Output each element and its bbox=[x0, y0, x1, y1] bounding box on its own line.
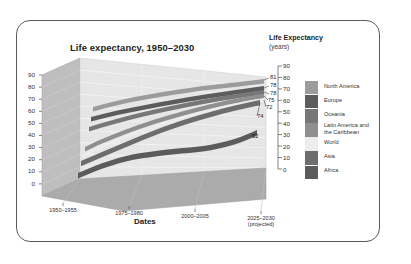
y-tick-right-60: 60 bbox=[283, 97, 297, 104]
legend-swatch-latin-america bbox=[305, 123, 318, 136]
legend-swatch-asia bbox=[305, 151, 318, 164]
x-axis-label: Dates bbox=[134, 217, 156, 226]
legend-item-asia[interactable]: Asia bbox=[305, 151, 379, 165]
x-tick-2025-2030: 2025–2030 (projected) bbox=[234, 215, 288, 227]
left-axis-ticks bbox=[39, 75, 42, 184]
value-label-asia: 74 bbox=[257, 113, 263, 119]
y-tick-left-20: 20 bbox=[19, 155, 35, 162]
value-label-europe: 78 bbox=[270, 82, 276, 88]
legend-label-asia: Asia bbox=[324, 153, 335, 159]
y-tick-left-40: 40 bbox=[19, 131, 35, 138]
y-tick-right-90: 90 bbox=[283, 62, 297, 69]
y-tick-left-80: 80 bbox=[19, 83, 35, 90]
legend-swatch-world bbox=[305, 137, 318, 150]
value-label-latin-america: 75 bbox=[268, 97, 274, 103]
figure-panel: Life expectancy, 1950–2030 Life Expectan… bbox=[16, 20, 380, 242]
legend-label-europe: Europe bbox=[324, 97, 342, 103]
x-tick-1975-1980: 1975–1980 bbox=[102, 210, 156, 216]
legend-label-north-america: North America bbox=[324, 83, 359, 89]
legend-label-line1: Latin America and bbox=[324, 122, 369, 128]
y-tick-right-80: 80 bbox=[283, 74, 297, 81]
y-tick-left-50: 50 bbox=[19, 119, 35, 126]
y-tick-right-30: 30 bbox=[283, 131, 297, 138]
legend-label-latin-america: Latin America andthe Caribbean bbox=[324, 122, 369, 135]
x-tick-line1: 2000–2005 bbox=[181, 213, 209, 219]
y-tick-right-40: 40 bbox=[283, 120, 297, 127]
y-tick-right-50: 50 bbox=[283, 108, 297, 115]
x-tick-1950-1955: 1950–1955 bbox=[36, 207, 90, 213]
legend-swatch-north-america bbox=[305, 81, 318, 94]
value-label-africa: 62 bbox=[252, 133, 258, 139]
value-label-world: 72 bbox=[266, 104, 272, 110]
x-tick-line2: (projected) bbox=[234, 221, 288, 227]
right-axis bbox=[278, 66, 282, 169]
y-tick-left-30: 30 bbox=[19, 143, 35, 150]
legend-item-world[interactable]: World bbox=[305, 137, 379, 151]
y-tick-right-10: 10 bbox=[283, 154, 297, 161]
legend: North America Europe Oceania Latin Ameri… bbox=[305, 81, 379, 180]
legend-item-africa[interactable]: Africa bbox=[305, 166, 379, 180]
x-tick-2000-2005: 2000–2005 bbox=[168, 213, 222, 219]
y-tick-right-0: 0 bbox=[283, 166, 297, 173]
legend-item-latin-america[interactable]: Latin America andthe Caribbean bbox=[305, 123, 379, 137]
legend-swatch-europe bbox=[305, 95, 318, 108]
y-tick-left-0: 0 bbox=[19, 180, 35, 187]
legend-item-north-america[interactable]: North America bbox=[305, 81, 379, 95]
x-tick-line1: 1950–1955 bbox=[49, 207, 77, 213]
legend-label-africa: Africa bbox=[324, 167, 338, 173]
legend-label-oceania: Oceania bbox=[324, 111, 345, 117]
y-tick-left-90: 90 bbox=[19, 71, 35, 78]
y-tick-right-20: 20 bbox=[283, 143, 297, 150]
legend-item-europe[interactable]: Europe bbox=[305, 95, 379, 109]
legend-swatch-africa bbox=[305, 166, 318, 179]
legend-swatch-oceania bbox=[305, 109, 318, 122]
y-tick-left-70: 70 bbox=[19, 95, 35, 102]
y-tick-left-60: 60 bbox=[19, 107, 35, 114]
legend-item-oceania[interactable]: Oceania bbox=[305, 109, 379, 123]
value-label-north-america: 81 bbox=[270, 74, 276, 80]
legend-label-world: World bbox=[324, 139, 339, 145]
x-tick-line1: 1975–1980 bbox=[115, 210, 143, 216]
value-label-oceania: 78 bbox=[270, 90, 276, 96]
legend-label-line2: the Caribbean bbox=[324, 129, 359, 135]
y-tick-left-10: 10 bbox=[19, 167, 35, 174]
y-tick-right-70: 70 bbox=[283, 85, 297, 92]
